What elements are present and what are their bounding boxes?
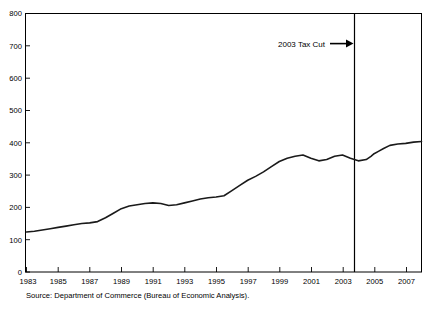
chart-plot-area: 800 700 600 500 400 300 200 100 0 [0,0,433,309]
y-tick-label: 700 [9,42,22,51]
y-tick-label: 400 [9,139,22,148]
x-tick-label: 1993 [176,277,193,286]
x-tick-label: 1997 [240,277,257,286]
y-tick-label: 500 [9,106,22,115]
x-axis-labels: 1983 1985 1987 1989 1991 1993 1995 1997 … [20,277,415,286]
y-axis-labels: 800 700 600 500 400 300 200 100 0 [9,9,22,277]
plot-frame [26,14,422,273]
x-tick-label: 2003 [335,277,352,286]
x-tick-label: 2005 [366,277,383,286]
x-tick-label: 2001 [303,277,320,286]
x-tick-label: 1995 [208,277,225,286]
y-tick-label: 100 [9,236,22,245]
x-tick-label: 1999 [271,277,288,286]
x-tick-label: 1991 [145,277,162,286]
chart-container: 800 700 600 500 400 300 200 100 0 [0,0,433,309]
x-tick-label: 2007 [398,277,415,286]
source-note: Source: Department of Commerce (Bureau o… [26,291,249,301]
y-tick-label: 200 [9,203,22,212]
x-tick-label: 1989 [113,277,130,286]
annotation-label: 2003 Tax Cut [278,40,326,49]
x-tick-label: 1983 [20,277,37,286]
y-tick-label: 300 [9,171,22,180]
y-tick-label: 0 [18,268,22,277]
y-tick-label: 800 [9,9,22,18]
x-tick-label: 1985 [50,277,67,286]
x-tick-label: 1987 [81,277,98,286]
y-tick-label: 600 [9,74,22,83]
